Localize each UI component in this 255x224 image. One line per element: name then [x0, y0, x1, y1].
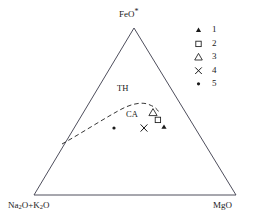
filled-triangle-icon [192, 23, 206, 37]
afm-ternary-diagram: FeO* Na2O+K2O MgO TH CA 1 2 [0, 0, 255, 224]
alkali-o: O [43, 200, 50, 210]
alkali-middle: O+K [22, 200, 40, 210]
legend-item-1: 1 [192, 23, 244, 37]
data-point-series-4 [141, 124, 148, 131]
data-point-series-5 [112, 126, 115, 129]
apex-label-feo: FeO* [119, 8, 139, 19]
field-label-calc-alkaline: CA [126, 110, 138, 119]
open-square-icon [192, 37, 206, 51]
legend-label-4: 4 [212, 66, 217, 75]
legend-label-1: 1 [212, 25, 217, 34]
data-point-series-2 [155, 117, 160, 122]
corner-label-mgo: MgO [213, 201, 232, 210]
legend-item-4: 4 [192, 64, 244, 78]
alkali-na: Na [8, 200, 19, 210]
legend-item-3: 3 [192, 50, 244, 64]
filled-dot-icon [192, 77, 206, 91]
legend-item-2: 2 [192, 37, 244, 51]
apex-label-text: FeO [119, 9, 135, 19]
data-point-series-1 [161, 124, 166, 128]
legend-item-5: 5 [192, 77, 244, 91]
data-point-series-3 [149, 109, 157, 116]
legend-label-3: 3 [212, 52, 217, 61]
field-label-tholeiitic: TH [117, 84, 128, 93]
legend-label-5: 5 [212, 79, 217, 88]
corner-label-alkalis: Na2O+K2O [8, 201, 50, 211]
apex-label-superscript: * [135, 7, 139, 16]
cross-x-icon [192, 64, 206, 78]
legend-label-2: 2 [212, 39, 217, 48]
open-triangle-icon [192, 50, 206, 64]
legend: 1 2 3 4 [192, 23, 244, 91]
